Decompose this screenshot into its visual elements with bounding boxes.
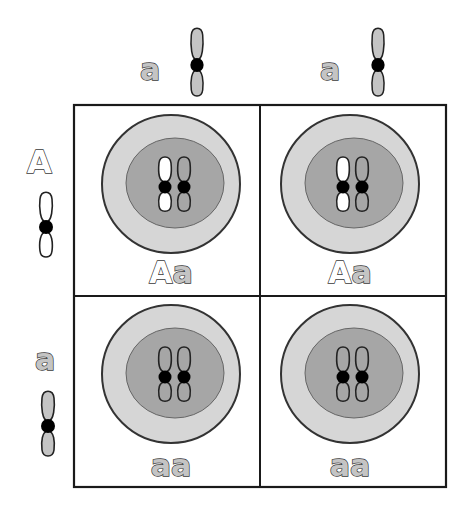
cell-aa-heterozygous-1: Aa: [102, 115, 240, 290]
chromosome-recessive-icon: [178, 157, 191, 211]
cell-aa-homozygous-1: aa: [102, 305, 240, 483]
chromosome-dominant-icon: [39, 192, 53, 257]
allele-label: A: [27, 143, 52, 181]
nucleus: [305, 328, 403, 418]
chromosome-recessive-icon: [337, 347, 350, 401]
genotype-label: Aa: [328, 255, 371, 290]
chromosome-recessive-icon: [159, 347, 172, 401]
genotype-label: aa: [330, 448, 371, 483]
cell-aa-heterozygous-2: Aa: [281, 115, 419, 290]
chromosome-dominant-icon: [337, 157, 350, 211]
nucleus: [126, 138, 224, 228]
top-allele-1: a: [140, 28, 204, 96]
allele-label: a: [140, 52, 160, 87]
chromosome-recessive-icon: [178, 347, 191, 401]
left-allele-1: A: [27, 143, 53, 257]
punnett-square-diagram: a a A a: [0, 0, 463, 515]
left-allele-2: a: [35, 342, 55, 456]
chromosome-recessive-icon: [190, 28, 203, 96]
top-allele-2: a: [320, 28, 385, 96]
chromosome-recessive-icon: [371, 28, 384, 96]
nucleus: [305, 138, 403, 228]
cell-aa-homozygous-2: aa: [281, 305, 419, 483]
chromosome-dominant-icon: [159, 157, 172, 211]
genotype-label: aa: [151, 448, 192, 483]
chromosome-recessive-icon: [41, 391, 55, 456]
chromosome-recessive-icon: [356, 347, 369, 401]
nucleus: [126, 328, 224, 418]
allele-label: a: [320, 52, 340, 87]
chromosome-recessive-icon: [356, 157, 369, 211]
allele-label: a: [35, 342, 55, 377]
genotype-label: Aa: [149, 255, 192, 290]
